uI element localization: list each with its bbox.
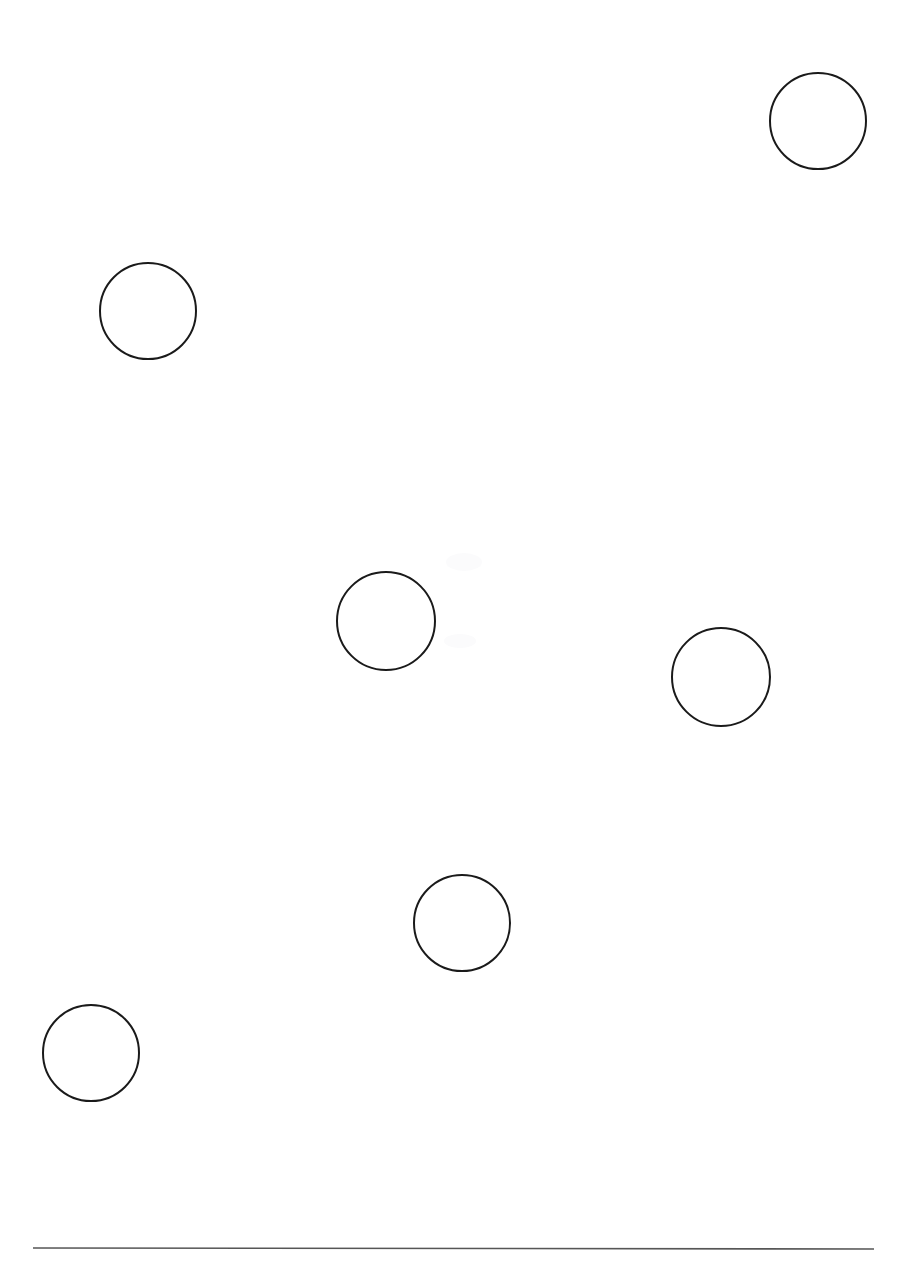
footer-separator-rule <box>33 1248 874 1249</box>
circle-marker-2[interactable] <box>100 263 196 359</box>
circle-marker-5[interactable] <box>414 875 510 971</box>
faint-marks-group <box>444 553 482 648</box>
drawing-layer <box>0 0 907 1269</box>
circle-marker-4[interactable] <box>672 628 770 726</box>
page-canvas <box>0 0 907 1269</box>
circle-markers-group <box>43 73 866 1101</box>
circle-marker-3[interactable] <box>337 572 435 670</box>
circle-marker-6[interactable] <box>43 1005 139 1101</box>
circle-marker-1[interactable] <box>770 73 866 169</box>
faint-mark-1 <box>446 553 482 571</box>
faint-mark-2 <box>444 634 476 648</box>
